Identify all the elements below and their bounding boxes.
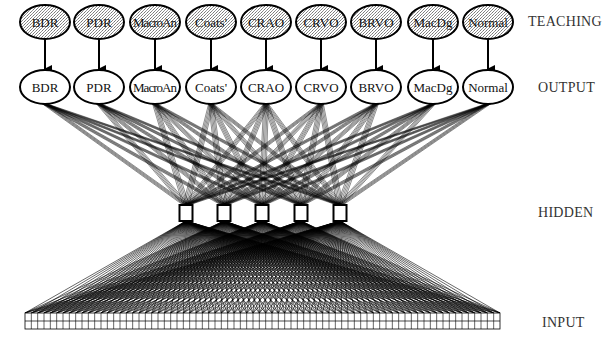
hidden-node bbox=[256, 205, 269, 221]
teaching-output-arrows bbox=[45, 39, 488, 69]
teaching-node-label: CRVO bbox=[303, 15, 338, 30]
teaching-node: CRAO bbox=[241, 5, 291, 39]
hidden-node bbox=[180, 205, 193, 221]
output-layer-label: OUTPUT bbox=[538, 80, 595, 96]
output-node-label: MacroAn bbox=[133, 80, 178, 95]
output-node: MacroAn bbox=[130, 70, 180, 104]
input-layer-grid bbox=[25, 313, 500, 329]
teaching-node: Normal bbox=[463, 5, 513, 39]
teaching-node-label: BRVO bbox=[358, 15, 393, 30]
network-diagram: BDRPDRMacroAnCoats'CRAOCRVOBRVOMacDgNorm… bbox=[0, 0, 608, 340]
teaching-node-label: PDR bbox=[86, 15, 112, 30]
teaching-node: Coats' bbox=[186, 5, 236, 39]
output-node: Normal bbox=[463, 70, 513, 104]
output-node: CRVO bbox=[296, 70, 346, 104]
input-hidden-connections bbox=[25, 221, 500, 313]
teaching-node: MacDg bbox=[408, 5, 458, 39]
output-node-label: CRAO bbox=[248, 80, 284, 95]
output-node-label: BRVO bbox=[358, 80, 393, 95]
output-node: PDR bbox=[74, 70, 124, 104]
output-node: MacDg bbox=[408, 70, 458, 104]
teaching-node-label: BDR bbox=[32, 15, 59, 30]
output-node-label: Coats' bbox=[195, 80, 227, 95]
teaching-node-label: Normal bbox=[468, 15, 508, 30]
output-node-label: MacDg bbox=[414, 80, 453, 95]
hidden-node bbox=[334, 205, 347, 221]
output-node: BRVO bbox=[351, 70, 401, 104]
hidden-layer-label: HIDDEN bbox=[538, 205, 593, 221]
output-node-label: PDR bbox=[86, 80, 112, 95]
output-node-label: BDR bbox=[32, 80, 59, 95]
input-layer-label: INPUT bbox=[542, 315, 585, 331]
teaching-layer-label: TEACHING bbox=[528, 14, 602, 30]
output-node: Coats' bbox=[186, 70, 236, 104]
hidden-output-connections bbox=[43, 104, 491, 205]
teaching-node: BRVO bbox=[351, 5, 401, 39]
hidden-layer bbox=[180, 205, 347, 221]
output-node-label: CRVO bbox=[303, 80, 338, 95]
teaching-node: PDR bbox=[74, 5, 124, 39]
hidden-node bbox=[295, 205, 308, 221]
teaching-node-label: Coats' bbox=[195, 15, 227, 30]
teaching-node-label: MacroAn bbox=[133, 15, 178, 30]
teaching-node-label: CRAO bbox=[248, 15, 284, 30]
teaching-node-label: MacDg bbox=[414, 15, 453, 30]
output-node: CRAO bbox=[241, 70, 291, 104]
output-node-label: Normal bbox=[468, 80, 508, 95]
output-node: BDR bbox=[20, 70, 70, 104]
teaching-node: CRVO bbox=[296, 5, 346, 39]
teaching-node: BDR bbox=[20, 5, 70, 39]
hidden-node bbox=[218, 205, 231, 221]
output-layer: BDRPDRMacroAnCoats'CRAOCRVOBRVOMacDgNorm… bbox=[20, 70, 513, 104]
teaching-node: MacroAn bbox=[130, 5, 180, 39]
teaching-layer: BDRPDRMacroAnCoats'CRAOCRVOBRVOMacDgNorm… bbox=[20, 5, 513, 39]
